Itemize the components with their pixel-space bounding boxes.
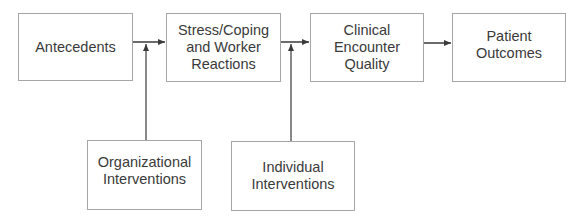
node-label: Individual Interventions (251, 159, 334, 193)
node-label: Stress/Coping and Worker Reactions (178, 22, 269, 73)
node-label: Clinical Encounter Quality (334, 22, 400, 73)
node-antecedents: Antecedents (18, 13, 133, 81)
node-label: Organizational Interventions (98, 154, 192, 188)
node-individual-interventions: Individual Interventions (231, 141, 355, 211)
node-label: Antecedents (35, 39, 116, 56)
node-patient-outcomes: Patient Outcomes (452, 13, 566, 82)
node-clinical-encounter-quality: Clinical Encounter Quality (310, 13, 424, 82)
node-organizational-interventions: Organizational Interventions (87, 140, 202, 210)
node-stress-coping: Stress/Coping and Worker Reactions (166, 13, 281, 82)
node-label: Patient Outcomes (476, 28, 542, 62)
